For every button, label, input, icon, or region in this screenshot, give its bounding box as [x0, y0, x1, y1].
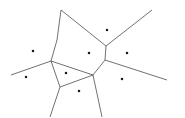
- voronoi-site-point: [121, 78, 123, 80]
- voronoi-site-point: [78, 90, 80, 92]
- voronoi-site-point: [106, 29, 108, 31]
- voronoi-site-point: [88, 52, 90, 54]
- voronoi-site-point: [126, 52, 128, 54]
- voronoi-site-point: [25, 76, 27, 78]
- figure-background: [0, 0, 185, 118]
- voronoi-canvas: [0, 0, 185, 118]
- voronoi-site-point: [65, 72, 67, 74]
- voronoi-figure: [0, 0, 185, 118]
- voronoi-site-point: [32, 50, 34, 52]
